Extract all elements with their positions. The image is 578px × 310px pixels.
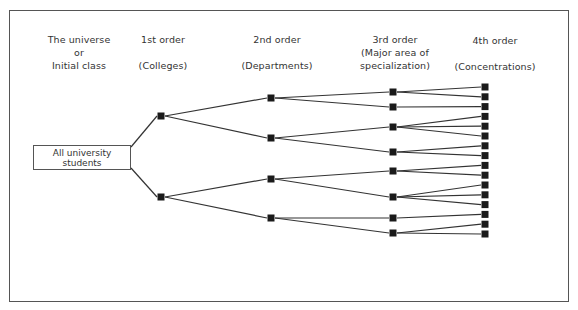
root-label-line1: All university — [34, 148, 130, 158]
edge-first-to-second — [165, 116, 267, 138]
fourth-order-node — [482, 162, 489, 169]
edge-third-to-fourth — [397, 233, 481, 234]
fourth-order-node — [482, 191, 489, 198]
fourth-order-node — [482, 113, 489, 120]
edge-second-to-third — [275, 138, 389, 152]
edge-root-to-first — [131, 168, 157, 197]
third-order-node — [390, 168, 397, 175]
fourth-order-node — [482, 182, 489, 189]
third-order-node — [390, 230, 397, 237]
third-order-node — [390, 89, 397, 96]
edge-third-to-fourth — [397, 197, 481, 205]
fourth-order-node — [482, 123, 489, 130]
third-order-node — [390, 215, 397, 222]
fourth-order-node — [482, 133, 489, 140]
second-order-node — [268, 135, 275, 142]
edge-third-to-fourth — [397, 127, 481, 136]
edge-third-to-fourth — [397, 87, 481, 92]
third-order-node — [390, 194, 397, 201]
first-order-node — [158, 113, 165, 120]
third-order-node — [390, 149, 397, 156]
edge-first-to-second — [165, 179, 267, 197]
edge-first-to-second — [165, 197, 267, 218]
fourth-order-node — [482, 103, 489, 110]
edge-third-to-fourth — [397, 152, 481, 156]
edge-third-to-fourth — [397, 116, 481, 127]
edge-second-to-third — [275, 171, 389, 179]
fourth-order-node — [482, 211, 489, 218]
third-order-node — [390, 124, 397, 131]
fourth-order-node — [482, 201, 489, 208]
fourth-order-node — [482, 93, 489, 100]
edge-second-to-third — [275, 179, 389, 197]
edge-third-to-fourth — [397, 224, 481, 233]
edge-first-to-second — [165, 98, 267, 116]
edge-third-to-fourth — [397, 92, 481, 97]
second-order-node — [268, 95, 275, 102]
root-label-line2: students — [34, 158, 130, 168]
edge-third-to-fourth — [397, 126, 481, 127]
edge-third-to-fourth — [397, 214, 481, 218]
edge-second-to-third — [275, 127, 389, 138]
edge-third-to-fourth — [397, 146, 481, 152]
root-node-box: All university students — [33, 145, 131, 170]
fourth-order-node — [482, 231, 489, 238]
fourth-order-node — [482, 221, 489, 228]
edge-root-to-first — [131, 116, 157, 147]
fourth-order-node — [482, 84, 489, 91]
second-order-node — [268, 176, 275, 183]
third-order-node — [390, 104, 397, 111]
edge-second-to-third — [275, 218, 389, 233]
edge-second-to-third — [275, 98, 389, 107]
first-order-node — [158, 194, 165, 201]
second-order-node — [268, 215, 275, 222]
edge-third-to-fourth — [397, 165, 481, 171]
fourth-order-node — [482, 142, 489, 149]
fourth-order-node — [482, 172, 489, 179]
edge-third-to-fourth — [397, 171, 481, 175]
edge-second-to-third — [275, 92, 389, 98]
fourth-order-node — [482, 152, 489, 159]
